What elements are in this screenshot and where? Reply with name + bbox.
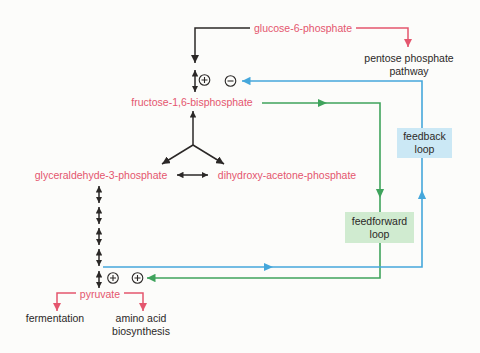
feedback-mid-arrow-right	[264, 263, 273, 271]
pyruvate-to-fermentation-arrow	[57, 293, 76, 311]
label-dihydroxy-acetone-phosphate: dihydroxy-acetone-phosphate	[218, 169, 356, 182]
fork-left-arrow	[162, 145, 193, 164]
feedforward-loop-label-line1: feedforward	[352, 215, 407, 228]
pathway-figure: feedback loop feedforward loop glucose-6…	[0, 0, 480, 353]
pentose-line2: pathway	[364, 65, 453, 78]
feedforward-mid-arrow-right	[318, 99, 327, 107]
label-glucose-6-phosphate: glucose-6-phosphate	[254, 22, 352, 35]
inhibition-symbol-f16bp	[225, 76, 236, 87]
feedback-loop-label-line2: loop	[415, 143, 435, 156]
pentose-line1: pentose phosphate	[364, 52, 453, 65]
g6p-to-f16bp-arrow	[195, 28, 250, 63]
label-amino-acid-biosynthesis: amino acid biosynthesis	[112, 312, 170, 338]
label-glyceraldehyde-3-phosphate: glyceraldehyde-3-phosphate	[35, 169, 168, 182]
feedback-loop-label-line1: feedback	[403, 130, 446, 143]
pyruvate-to-amino-acid-arrow	[124, 293, 143, 311]
fork-right-arrow	[193, 145, 224, 164]
feedforward-mid-arrow-down	[376, 189, 384, 198]
feedback-mid-arrow-up	[418, 190, 426, 199]
label-fermentation: fermentation	[26, 312, 84, 325]
g6p-to-pentose-arrow	[356, 28, 408, 47]
label-fructose-16-bisphosphate: fructose-1,6-bisphosphate	[131, 96, 252, 109]
amino-line1: amino acid	[112, 312, 170, 325]
label-pyruvate: pyruvate	[80, 288, 120, 301]
feedforward-loop-line	[147, 103, 380, 278]
amino-line2: biosynthesis	[112, 325, 170, 338]
activation-symbol-f16bp	[199, 75, 210, 86]
activation-symbol-pyruvate-1	[108, 273, 119, 284]
feedforward-loop-label-line2: loop	[370, 228, 390, 241]
feedforward-loop-box: feedforward loop	[345, 212, 414, 243]
label-pentose-phosphate-pathway: pentose phosphate pathway	[364, 52, 453, 78]
activation-symbol-pyruvate-2	[132, 273, 143, 284]
feedback-loop-box: feedback loop	[397, 128, 452, 158]
